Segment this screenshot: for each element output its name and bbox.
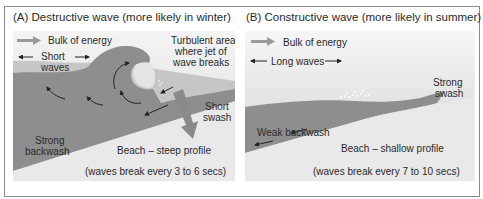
beach-steep-profile-label: Beach – steep profile	[117, 145, 211, 156]
diagram-frame: (A) Destructive wave (more likely in win…	[4, 6, 480, 197]
long-waves-label: Long waves	[271, 56, 324, 67]
short-swash-label-line1: Short	[205, 101, 229, 112]
panel-constructive-wave: (B) Constructive wave (more likely in su…	[242, 7, 479, 196]
destructive-wave-scene: Bulk of energy Short waves Turbulent are…	[13, 31, 235, 181]
short-waves-label-line2: waves	[41, 62, 69, 73]
panel-a-title: (A) Destructive wave (more likely in win…	[13, 11, 231, 23]
short-swash-label-line2: swash	[203, 112, 231, 123]
constructive-wave-illustration	[245, 31, 475, 181]
turbulent-area-label-line1: Turbulent area	[171, 35, 235, 46]
constructive-wave-scene: Bulk of energy Long waves Strong swash W…	[245, 31, 475, 181]
bulk-of-energy-label: Bulk of energy	[283, 37, 347, 48]
destructive-timing-label: (waves break every 3 to 6 secs)	[85, 166, 226, 177]
panel-destructive-wave: (A) Destructive wave (more likely in win…	[5, 7, 242, 196]
strong-swash-label-line2: swash	[435, 88, 463, 99]
turbulent-area-label-line2: where jet of	[175, 46, 227, 57]
strong-backwash-label-line1: Strong	[35, 135, 64, 146]
bulk-of-energy-label: Bulk of energy	[48, 35, 112, 46]
beach-shallow-profile-label: Beach – shallow profile	[341, 143, 444, 154]
strong-swash-label-line1: Strong	[433, 77, 462, 88]
turbulent-area-label-line3: wave breaks	[173, 57, 229, 68]
panel-b-title: (B) Constructive wave (more likely in su…	[246, 11, 481, 23]
strong-backwash-label-line2: backwash	[25, 146, 69, 157]
constructive-timing-label: (waves break every 7 to 10 secs)	[313, 166, 460, 177]
weak-backwash-label: Weak backwash	[257, 127, 330, 138]
short-waves-label-line1: Short	[41, 51, 65, 62]
